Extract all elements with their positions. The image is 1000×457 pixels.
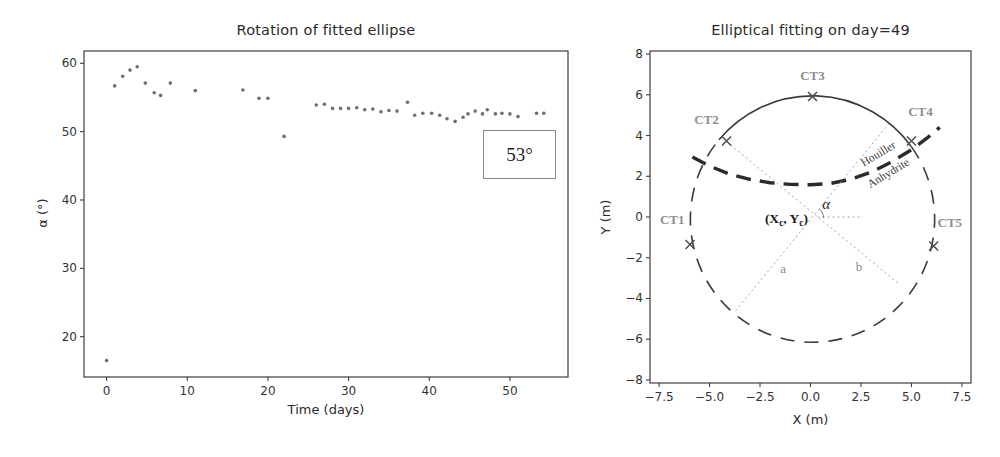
- data-point: [508, 112, 512, 116]
- data-point: [466, 112, 470, 116]
- data-point: [535, 111, 539, 115]
- y-tick-label: 2: [635, 169, 643, 183]
- data-point: [144, 81, 148, 85]
- data-point: [542, 111, 546, 115]
- data-point: [323, 103, 327, 107]
- axis-letter-b: b: [856, 259, 863, 274]
- x-tick-label: 20: [260, 384, 275, 398]
- data-point: [241, 88, 245, 92]
- x-tick-label: 0: [103, 384, 111, 398]
- data-point: [135, 65, 139, 69]
- sensor-label-ct5: CT5: [938, 215, 963, 230]
- data-point: [438, 113, 442, 117]
- x-tick-label: 30: [341, 384, 356, 398]
- sensor-label-ct4: CT4: [908, 104, 933, 119]
- data-point: [430, 111, 434, 115]
- data-point: [128, 68, 132, 72]
- figure-canvas: 010203040502030405060−7.5−5.0−2.50.02.55…: [0, 0, 1000, 457]
- data-point: [481, 112, 485, 116]
- y-tick-label: 0: [635, 210, 643, 224]
- y-tick-label: 4: [635, 129, 643, 143]
- y-tick-label: −2: [625, 251, 643, 265]
- major-axis-a-dotted-line: [736, 124, 888, 310]
- data-point: [315, 103, 319, 107]
- y-tick-label: −6: [625, 332, 643, 346]
- right-xaxis-label: X (m): [650, 412, 971, 427]
- center-label-part: , Y: [783, 211, 799, 226]
- y-tick-label: 8: [635, 47, 643, 61]
- data-point: [113, 84, 117, 88]
- data-point: [461, 116, 465, 120]
- y-tick-label: 6: [635, 88, 643, 102]
- data-point: [363, 108, 367, 112]
- data-point: [473, 109, 477, 113]
- ellipse-center-label: (Xc, Yc): [765, 211, 808, 228]
- right-chart: −7.5−5.0−2.50.02.55.07.5−8−6−4−202468Hou…: [625, 47, 971, 404]
- data-point: [379, 110, 383, 114]
- sensor-marker-ct4-x-icon: [907, 137, 916, 146]
- data-point: [159, 94, 163, 98]
- x-tick-label: 0.0: [801, 390, 820, 404]
- left-yaxis-label: α (°): [35, 198, 50, 227]
- y-tick-label: 20: [62, 330, 77, 344]
- data-point: [347, 107, 351, 111]
- data-point: [331, 107, 335, 111]
- data-point: [486, 108, 490, 112]
- right-chart-title: Elliptical fitting on day=49: [650, 22, 971, 38]
- data-point: [494, 112, 498, 116]
- sensor-marker-ct5-x-icon: [929, 241, 938, 250]
- alpha-value-text: 53°: [506, 144, 533, 166]
- fitted-ellipse-solid-arc: [719, 96, 911, 147]
- center-label-part: ): [804, 211, 809, 226]
- sensor-label-ct2: CT2: [694, 112, 719, 127]
- left-xaxis-label: Time (days): [84, 402, 568, 417]
- left-chart-title: Rotation of fitted ellipse: [84, 22, 568, 38]
- data-point: [387, 109, 391, 113]
- axis-letter-a: a: [780, 261, 786, 276]
- data-point: [339, 107, 343, 111]
- data-point: [105, 359, 109, 363]
- right-yaxis-label: Y (m): [598, 200, 613, 235]
- alpha-symbol-label: α: [822, 196, 831, 212]
- data-point: [516, 115, 520, 119]
- y-tick-label: 50: [62, 125, 77, 139]
- data-point: [282, 135, 286, 139]
- y-tick-label: 40: [62, 193, 77, 207]
- data-point: [395, 109, 399, 113]
- x-tick-label: 7.5: [952, 390, 971, 404]
- data-point: [355, 106, 359, 110]
- data-point: [121, 75, 125, 79]
- data-point: [152, 91, 156, 95]
- data-point: [194, 89, 198, 93]
- data-point: [453, 120, 457, 124]
- x-tick-label: 10: [180, 384, 195, 398]
- data-point: [445, 117, 449, 121]
- data-point: [257, 96, 261, 100]
- x-tick-label: −7.5: [645, 390, 674, 404]
- data-point: [266, 96, 270, 100]
- x-tick-label: 40: [422, 384, 437, 398]
- x-tick-label: −5.0: [695, 390, 724, 404]
- y-tick-label: −4: [625, 291, 643, 305]
- sensor-marker-ct2-x-icon: [722, 137, 731, 146]
- center-label-part: (X: [765, 211, 779, 226]
- scatter-points: [105, 65, 546, 363]
- left-chart: 010203040502030405060: [62, 51, 568, 398]
- data-point: [500, 111, 504, 115]
- y-tick-label: 60: [62, 56, 77, 70]
- data-point: [421, 111, 425, 115]
- x-tick-label: 2.5: [851, 390, 870, 404]
- y-tick-label: 30: [62, 261, 77, 275]
- data-point: [371, 107, 375, 111]
- sensor-label-ct1: CT1: [660, 212, 685, 227]
- figure: 010203040502030405060−7.5−5.0−2.50.02.55…: [0, 0, 1000, 457]
- x-tick-label: −2.5: [745, 390, 774, 404]
- y-tick-label: −8: [625, 373, 643, 387]
- alpha-value-annotation: 53°: [483, 130, 556, 179]
- data-point: [413, 113, 417, 117]
- x-tick-label: 5.0: [902, 390, 921, 404]
- data-point: [406, 101, 410, 105]
- x-tick-label: 50: [502, 384, 517, 398]
- axes-frame: [650, 51, 971, 383]
- axes-frame: [84, 51, 568, 377]
